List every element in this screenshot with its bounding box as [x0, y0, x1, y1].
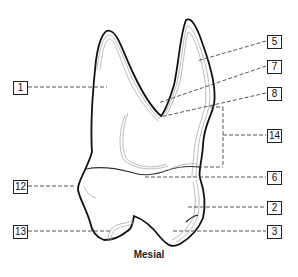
label-13: 13	[13, 225, 28, 239]
label-3: 3	[267, 225, 282, 239]
label-14: 14	[267, 129, 282, 143]
tooth-diagram	[0, 0, 298, 277]
label-7: 7	[267, 60, 282, 74]
label-1: 1	[13, 81, 28, 95]
view-caption: Mesial	[0, 249, 298, 260]
label-5: 5	[267, 35, 282, 49]
label-2: 2	[267, 201, 282, 215]
label-6: 6	[267, 171, 282, 185]
cej-line	[86, 166, 200, 174]
label-12: 12	[13, 180, 28, 194]
label-8: 8	[267, 87, 282, 101]
